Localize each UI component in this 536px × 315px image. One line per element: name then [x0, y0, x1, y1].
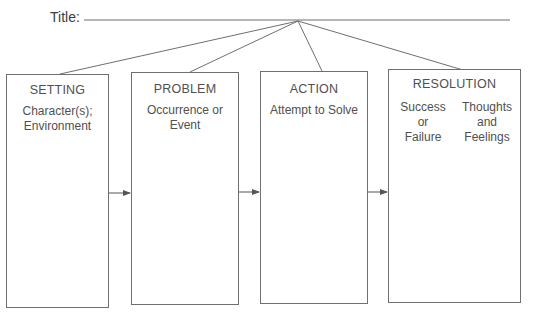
setting-heading: SETTING: [7, 83, 108, 97]
action-subtext: Attempt to Solve: [261, 103, 367, 118]
fan-line-setting: [60, 21, 298, 74]
problem-subtext-line: Event: [132, 118, 238, 133]
setting-subtext-line: Character(s);: [7, 104, 108, 119]
resolution-heading: RESOLUTION: [389, 77, 520, 91]
title-label: Title:: [50, 9, 80, 25]
fan-line-problem: [190, 21, 298, 72]
resolution-success-column: Success or Failure: [395, 100, 451, 145]
action-subtext-line: Attempt to Solve: [261, 103, 367, 118]
action-box: ACTION Attempt to Solve: [260, 71, 368, 304]
action-heading: ACTION: [261, 82, 367, 96]
problem-subtext-line: Occurrence or: [132, 103, 238, 118]
problem-subtext: Occurrence or Event: [132, 103, 238, 133]
resolution-col-line: or: [395, 115, 451, 130]
problem-box: PROBLEM Occurrence or Event: [131, 72, 239, 305]
setting-subtext-line: Environment: [7, 119, 108, 134]
setting-subtext: Character(s); Environment: [7, 104, 108, 134]
resolution-col-line: Failure: [395, 130, 451, 145]
resolution-thoughts-column: Thoughts and Feelings: [457, 100, 517, 145]
resolution-col-line: Thoughts: [457, 100, 517, 115]
fan-line-resolution: [298, 21, 463, 70]
resolution-box: RESOLUTION Success or Failure Thoughts a…: [388, 69, 521, 303]
setting-box: SETTING Character(s); Environment: [6, 74, 109, 308]
fan-line-action: [298, 21, 322, 71]
resolution-col-line: Feelings: [457, 130, 517, 145]
problem-heading: PROBLEM: [132, 82, 238, 96]
resolution-col-line: Success: [395, 100, 451, 115]
resolution-col-line: and: [457, 115, 517, 130]
